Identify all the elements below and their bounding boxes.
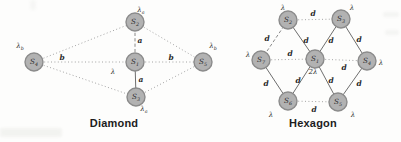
lambda-label-diamond-S1: λ — [110, 68, 115, 76]
edge-label-hexagon-S6-S5: d — [311, 105, 317, 114]
lambda-label-diamond-S3: λa — [139, 105, 147, 114]
edge-diamond-S3-S5 — [136, 62, 203, 97]
edge-label-hexagon-S1-S5: d — [328, 76, 334, 85]
edge-label-hexagon-S7-S6: d — [263, 79, 269, 88]
lambda-label-diamond-S2: λa — [136, 6, 144, 15]
edge-label-hexagon-S1-S6: d — [295, 76, 301, 85]
lambda-label-hexagon-S5: λ — [350, 111, 355, 119]
edge-label-hexagon-S2-S3: d — [310, 9, 316, 18]
lambda-label-hexagon-S6: λ — [268, 111, 273, 119]
edge-label-hexagon-S4-S5: d — [356, 79, 362, 88]
lambda-label-hexagon-S2: λ — [280, 4, 285, 12]
edge-label-diamond-S1-S3: a — [139, 75, 144, 84]
figure-canvas: bbaaS1S2S3S4S5λaλbλλaλbddddddddddddS1S2S… — [0, 0, 401, 142]
edge-diamond-S4-S3 — [34, 62, 136, 97]
lambda-label-hexagon-S3: λ — [349, 4, 354, 12]
lambda-label-diamond-S5: λb — [208, 42, 216, 51]
edge-label-hexagon-S7-S2: d — [264, 34, 270, 43]
edge-label-hexagon-S1-S4: d — [341, 63, 347, 72]
edge-label-hexagon-S3-S1: d — [328, 36, 334, 45]
edge-label-hexagon-S7-S1: d — [287, 49, 293, 58]
topology-figure: bbaaS1S2S3S4S5λaλbλλaλbddddddddddddS1S2S… — [0, 0, 401, 142]
lambda-label-hexagon-S4: λ — [378, 59, 383, 67]
lambda-label-hexagon-S7: λ — [245, 51, 250, 59]
edge-label-diamond-S2-S1: a — [138, 36, 143, 45]
lambda-label-diamond-S4: λb — [15, 42, 23, 51]
edge-label-diamond-S4-S1: b — [59, 53, 64, 62]
edge-label-hexagon-S2-S1: d — [303, 36, 309, 45]
lambda-label-hexagon-S1: 2λ — [308, 68, 318, 76]
edge-label-hexagon-S3-S4: d — [356, 35, 362, 44]
edge-diamond-S4-S2 — [34, 22, 135, 62]
edge-label-diamond-S1-S5: b — [168, 53, 173, 62]
diamond-caption: Diamond — [90, 117, 138, 129]
hexagon-caption: Hexagon — [289, 117, 337, 129]
